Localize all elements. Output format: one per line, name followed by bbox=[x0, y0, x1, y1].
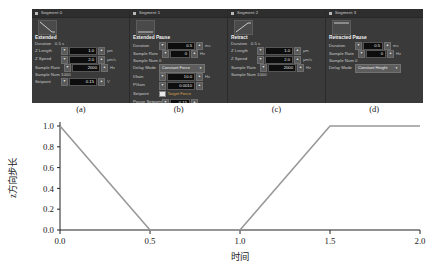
segment-2-row-samplerate[interactable]: Sample Rate ▼ 2000 ▲ Hz bbox=[231, 64, 325, 72]
increment-icon[interactable]: ▲ bbox=[297, 64, 304, 72]
chevron-down-icon[interactable]: ▼ bbox=[395, 65, 398, 72]
segment-0-tab[interactable]: Segment 0 bbox=[32, 9, 129, 18]
increment-icon[interactable]: ▲ bbox=[98, 78, 105, 86]
decrement-icon[interactable]: ▼ bbox=[257, 47, 264, 55]
collapse-icon[interactable] bbox=[133, 12, 136, 15]
increment-icon[interactable]: ▲ bbox=[196, 42, 203, 50]
decrement-icon[interactable]: ▼ bbox=[61, 47, 68, 55]
unit-label: V bbox=[107, 80, 110, 84]
target-force-checkbox[interactable] bbox=[159, 91, 166, 98]
decrement-icon[interactable]: ▼ bbox=[159, 73, 166, 81]
delay-mode-select[interactable]: Constant Height ▼ bbox=[355, 64, 401, 73]
increment-icon[interactable]: ▲ bbox=[294, 56, 301, 64]
caption-b: (b) bbox=[130, 104, 228, 117]
stepper[interactable]: ▼ 0.5 ▲ bbox=[159, 42, 203, 50]
decrement-icon[interactable]: ▼ bbox=[159, 42, 166, 50]
decrement-icon[interactable]: ▼ bbox=[162, 99, 169, 103]
segment-2-row-zlength[interactable]: Z Length ▼ 1.0 ▲ µm bbox=[231, 47, 325, 55]
delay-mode-select[interactable]: Constant Force ▼ bbox=[159, 64, 205, 73]
collapse-icon[interactable] bbox=[231, 12, 234, 15]
segment-3-tab[interactable]: Segment 3 bbox=[326, 9, 423, 18]
stepper[interactable]: ▼ 10.0 ▲ bbox=[159, 73, 203, 81]
segment-panel-3[interactable]: Segment 3 Retracted Pause Duration ▼ 0.5… bbox=[326, 9, 423, 103]
stepper[interactable]: ▼ 2000 ▲ bbox=[260, 64, 304, 72]
increment-icon[interactable]: ▲ bbox=[196, 82, 203, 90]
stepper[interactable]: ▼ 1.0 ▲ bbox=[257, 47, 301, 55]
increment-icon[interactable]: ▲ bbox=[384, 42, 391, 50]
segment-1-row-pgain[interactable]: PGain ▼ 0.0010 ▲ bbox=[133, 82, 227, 90]
decrement-icon[interactable]: ▼ bbox=[64, 64, 71, 72]
segment-3-row-samplerate[interactable]: Sample Rate ▼ 0 ▲ Hz bbox=[329, 50, 423, 58]
value-field[interactable]: 1.0 bbox=[69, 47, 97, 55]
delay-mode-value: Constant Height bbox=[358, 65, 387, 72]
collapse-icon[interactable] bbox=[329, 12, 332, 15]
segment-1-row-duration[interactable]: Duration ▼ 0.5 ▲ ms bbox=[133, 42, 227, 50]
increment-icon[interactable]: ▲ bbox=[196, 73, 203, 81]
segment-1-row-samplerate[interactable]: Sample Rate ▼ 0 ▲ Hz bbox=[133, 50, 227, 58]
increment-icon[interactable]: ▲ bbox=[98, 47, 105, 55]
value-field[interactable]: 1.0 bbox=[265, 47, 293, 55]
stepper[interactable]: ▼ 0 ▲ bbox=[358, 50, 394, 58]
value-field[interactable]: 0.15 bbox=[69, 78, 97, 86]
decrement-icon[interactable]: ▼ bbox=[260, 64, 267, 72]
segment-panel-2[interactable]: Segment 2 Retract Duration 0.5 s Z Lengt… bbox=[228, 9, 326, 103]
value-field[interactable]: 0.15 bbox=[170, 99, 190, 103]
decrement-icon[interactable]: ▼ bbox=[257, 56, 264, 64]
decrement-icon[interactable]: ▼ bbox=[159, 82, 166, 90]
stepper[interactable]: ▼ 2.0 ▲ bbox=[61, 56, 105, 64]
stepper[interactable]: ▼ 0 ▲ bbox=[162, 50, 198, 58]
stepper[interactable]: ▼ 0.15 ▲ bbox=[61, 78, 105, 86]
flat-high-icon bbox=[332, 20, 351, 35]
unit-label: µm bbox=[303, 49, 309, 53]
segment-1-row-igain[interactable]: IGain ▼ 10.0 ▲ Hz bbox=[133, 73, 227, 81]
segment-1-row-delaymode[interactable]: Delay Mode Constant Force ▼ bbox=[133, 65, 227, 73]
segment-3-row-duration[interactable]: Duration ▼ 0.5 ▲ ms bbox=[329, 42, 423, 50]
segment-2-tab[interactable]: Segment 2 bbox=[228, 9, 325, 18]
value-field[interactable]: 10.0 bbox=[167, 73, 195, 81]
caption-a: (a) bbox=[32, 104, 130, 117]
x-tick-label: 1.0 bbox=[235, 236, 247, 246]
decrement-icon[interactable]: ▼ bbox=[61, 78, 68, 86]
segment-panel-0[interactable]: Segment 0 Extended Duration 0.5 s Z Leng… bbox=[32, 9, 130, 103]
increment-icon[interactable]: ▲ bbox=[294, 47, 301, 55]
segment-1-row-setpoint[interactable]: Setpoint Target Force bbox=[133, 90, 227, 98]
value-field[interactable]: 0 bbox=[170, 50, 190, 58]
value-field[interactable]: 2.0 bbox=[265, 56, 293, 64]
value-field[interactable]: 2.0 bbox=[69, 56, 97, 64]
decrement-icon[interactable]: ▼ bbox=[61, 56, 68, 64]
chevron-down-icon[interactable]: ▼ bbox=[199, 65, 202, 72]
increment-icon[interactable]: ▲ bbox=[101, 64, 108, 72]
decrement-icon[interactable]: ▼ bbox=[358, 50, 365, 58]
row-label: Sample Rate bbox=[133, 52, 160, 56]
stepper[interactable]: ▼ 2.0 ▲ bbox=[257, 56, 301, 64]
row-label: PGain bbox=[133, 83, 157, 87]
increment-icon[interactable]: ▲ bbox=[191, 99, 198, 103]
stepper[interactable]: ▼ 0.0010 ▲ bbox=[159, 82, 203, 90]
collapse-icon[interactable] bbox=[35, 12, 38, 15]
value-field[interactable]: 0.5 bbox=[167, 42, 195, 50]
stepper[interactable]: ▼ 1.0 ▲ bbox=[61, 47, 105, 55]
segment-1-row-pause-setpoint[interactable]: Pause Setpoint ▼ 0.15 ▲ bbox=[133, 99, 227, 103]
value-field[interactable]: 2000 bbox=[72, 64, 100, 72]
value-field[interactable]: 0.5 bbox=[363, 42, 383, 50]
segment-0-row-samplerate[interactable]: Sample Rate ▼ 2000 ▲ Hz bbox=[35, 64, 129, 72]
segment-3-row-delaymode[interactable]: Delay Mode Constant Height ▼ bbox=[329, 65, 423, 73]
segment-0-row-zspeed[interactable]: Z Speed ▼ 2.0 ▲ µm/s bbox=[35, 56, 129, 64]
stepper[interactable]: ▼ 2000 ▲ bbox=[64, 64, 108, 72]
increment-icon[interactable]: ▲ bbox=[387, 50, 394, 58]
y-tick-label: 0.4 bbox=[43, 184, 55, 194]
increment-icon[interactable]: ▲ bbox=[98, 56, 105, 64]
increment-icon[interactable]: ▲ bbox=[191, 50, 198, 58]
segment-0-row-zlength[interactable]: Z Length ▼ 1.0 ▲ µm bbox=[35, 47, 129, 55]
stepper[interactable]: ▼ 0.15 ▲ bbox=[162, 99, 198, 103]
segment-2-row-zspeed[interactable]: Z Speed ▼ 2.0 ▲ µm/s bbox=[231, 56, 325, 64]
segment-0-row-setpoint[interactable]: Setpoint ▼ 0.15 ▲ V bbox=[35, 78, 129, 86]
decrement-icon[interactable]: ▼ bbox=[355, 42, 362, 50]
value-field[interactable]: 0.0010 bbox=[167, 82, 195, 90]
segment-1-tab[interactable]: Segment 1 bbox=[130, 9, 227, 18]
decrement-icon[interactable]: ▼ bbox=[162, 50, 169, 58]
stepper[interactable]: ▼ 0.5 ▲ bbox=[355, 42, 391, 50]
value-field[interactable]: 2000 bbox=[268, 64, 296, 72]
segment-panel-1[interactable]: Segment 1 Extended Pause Duration ▼ 0.5 … bbox=[130, 9, 228, 103]
value-field[interactable]: 0 bbox=[366, 50, 386, 58]
